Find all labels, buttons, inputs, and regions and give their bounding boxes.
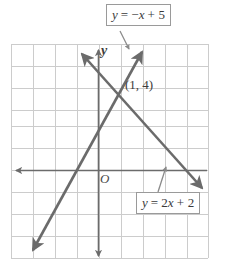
callout-bottom-coef: 2 <box>161 195 168 210</box>
callout-equation-2x-plus-2: y = 2x + 2 <box>136 192 200 214</box>
callout-top-sign: − <box>131 7 139 22</box>
origin-label: O <box>100 172 109 185</box>
intersection-point-label: (1, 4) <box>125 78 153 91</box>
figure-background <box>0 0 233 266</box>
coordinate-graph-figure <box>0 0 233 266</box>
callout-equation-negative-x-plus-5: y = −x + 5 <box>106 4 171 26</box>
callout-bottom-tail: + 2 <box>177 195 195 210</box>
y-axis-label: y <box>101 44 107 58</box>
callout-top-tail: + 5 <box>148 7 166 22</box>
